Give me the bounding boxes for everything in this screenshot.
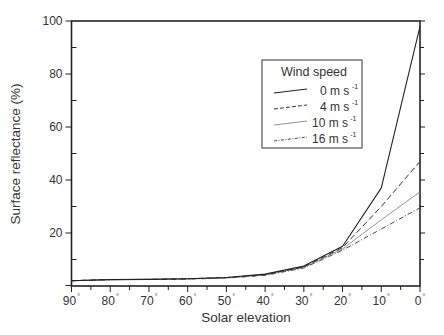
- legend-label-superscript: -1: [352, 83, 358, 90]
- x-axis-title: Solar elevation: [201, 310, 290, 325]
- degree-symbol: °: [271, 293, 274, 300]
- degree-symbol: °: [310, 293, 313, 300]
- x-tick-label: 40: [256, 294, 270, 308]
- legend: Wind speed0 m s-14 m s-110 m s-116 m s-1: [262, 60, 362, 148]
- y-axis-title: Surface reflectance (%): [8, 83, 23, 224]
- y-axis: 20406080100: [42, 14, 425, 286]
- x-tick-label: 0: [415, 294, 422, 308]
- series-line-4-ms: [72, 161, 421, 280]
- x-tick-label: 60: [179, 294, 193, 308]
- legend-label-superscript: -1: [350, 131, 356, 138]
- legend-label: 16 m s: [312, 132, 348, 146]
- degree-symbol: °: [77, 293, 80, 300]
- legend-label: 0 m s: [320, 84, 349, 98]
- y-tick-label: 60: [49, 120, 63, 134]
- y-tick-label: 40: [49, 173, 63, 187]
- x-tick-label: 10: [373, 294, 387, 308]
- legend-label: 4 m s: [320, 100, 349, 114]
- legend-label: 10 m s: [312, 116, 348, 130]
- degree-symbol: °: [155, 293, 158, 300]
- degree-symbol: °: [422, 293, 425, 300]
- degree-symbol: °: [116, 293, 119, 300]
- legend-title: Wind speed: [281, 65, 347, 79]
- degree-symbol: °: [387, 293, 390, 300]
- y-tick-label: 20: [49, 226, 63, 240]
- legend-label-superscript: -1: [352, 99, 358, 106]
- x-axis: 90°80°70°60°50°40°30°20°10°0°: [63, 286, 426, 308]
- x-tick-label: 80: [102, 294, 116, 308]
- plot-border: [72, 21, 421, 286]
- x-tick-label: 20: [334, 294, 348, 308]
- degree-symbol: °: [232, 293, 235, 300]
- y-tick-label: 100: [42, 14, 62, 28]
- plot-frame: [72, 21, 421, 286]
- y-tick-label: 80: [49, 67, 63, 81]
- x-tick-label: 30: [295, 294, 309, 308]
- series-line-16-ms: [72, 208, 421, 281]
- x-tick-label: 70: [140, 294, 154, 308]
- degree-symbol: °: [348, 293, 351, 300]
- x-tick-label: 90: [63, 294, 77, 308]
- series-line-0-ms: [72, 26, 421, 280]
- series-layer: [72, 26, 421, 280]
- x-tick-label: 50: [218, 294, 232, 308]
- legend-label-superscript: -1: [350, 115, 356, 122]
- reflectance-chart: 20406080100 90°80°70°60°50°40°30°20°10°0…: [0, 0, 444, 335]
- degree-symbol: °: [193, 293, 196, 300]
